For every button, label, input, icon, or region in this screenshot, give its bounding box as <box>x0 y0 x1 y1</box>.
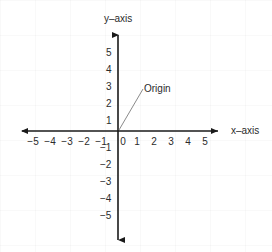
x-tick-label-2: 2 <box>151 137 157 147</box>
x-tick-label-5: 5 <box>202 137 208 147</box>
x-tick-label-1: 1 <box>134 137 140 147</box>
x-tick-label--5: −5 <box>27 137 38 147</box>
x-tick-label-0: 0 <box>120 137 126 147</box>
coordinate-plane-figure: y–axis x–axis Origin −5 −4 −3 −2 −1 0 1 … <box>0 0 272 252</box>
x-tick-label--2: −2 <box>78 137 89 147</box>
y-tick-label-3: 3 <box>106 82 112 92</box>
y-tick-label--5: −5 <box>100 211 111 221</box>
y-tick-label-1: 1 <box>106 116 112 126</box>
x-tick-label-3: 3 <box>168 137 174 147</box>
y-tick-label--4: −4 <box>100 194 111 204</box>
y-tick-label-4: 4 <box>106 65 112 75</box>
x-tick-label-4: 4 <box>185 137 191 147</box>
y-tick-label-2: 2 <box>106 99 112 109</box>
origin-annotation-label: Origin <box>144 84 171 94</box>
x-axis-label: x–axis <box>231 126 259 136</box>
origin-leader-line <box>119 89 143 130</box>
y-tick-label--2: −2 <box>100 160 111 170</box>
y-tick-label--1: −1 <box>100 143 111 153</box>
y-tick-label--3: −3 <box>100 177 111 187</box>
y-axis-label: y–axis <box>104 14 132 24</box>
x-tick-label--3: −3 <box>61 137 72 147</box>
x-tick-label--4: −4 <box>44 137 55 147</box>
y-tick-label-5: 5 <box>106 48 112 58</box>
